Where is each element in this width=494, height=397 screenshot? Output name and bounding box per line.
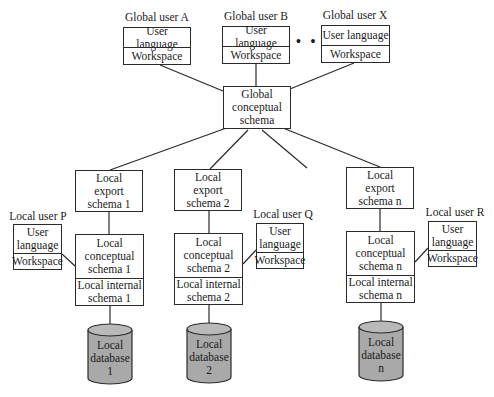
user-language-cell: User language [223, 27, 289, 46]
export-line: schema 2 [175, 197, 241, 210]
internal-line: Local internal [76, 279, 143, 292]
local-export-schema-1-box: Local export schema 1 [75, 170, 143, 212]
user-language-cell: User language [429, 222, 476, 251]
global-user-a-box: User language Workspace [123, 27, 191, 65]
local-user-r-label: Local user R [425, 206, 485, 219]
db-line: Local [88, 339, 132, 352]
internal-line: Local internal [347, 276, 414, 289]
db-line: 2 [187, 364, 231, 377]
local-internal-schema-n: Local internal schema n [347, 276, 414, 302]
local-user-p-box: User language Workspace [13, 224, 62, 270]
global-user-b-box: User language Workspace [222, 26, 290, 64]
user-language-cell: User language [322, 26, 389, 45]
user-language-cell: User language [124, 28, 190, 47]
global-user-x-label: Global user X [318, 9, 392, 22]
local-conceptual-internal-schema-1-box: Local conceptual schema 1 Local internal… [75, 234, 144, 306]
export-line: Local [76, 172, 142, 185]
global-user-b-label: Global user B [219, 10, 293, 23]
workspace-cell: Workspace [14, 254, 61, 269]
conceptual-line: schema n [347, 260, 414, 273]
export-line: export [76, 185, 142, 198]
internal-line: schema 1 [76, 292, 143, 305]
workspace-cell: Workspace [223, 46, 289, 63]
internal-line: schema 2 [175, 291, 242, 304]
local-user-p-label: Local user P [8, 210, 68, 223]
local-conceptual-schema-n: Local conceptual schema n [347, 232, 414, 276]
db-line: Local [187, 338, 231, 351]
local-conceptual-schema-2: Local conceptual schema 2 [175, 234, 242, 278]
user-language-line: language [14, 239, 61, 252]
database-cylinders [88, 321, 403, 384]
local-conceptual-schema-1: Local conceptual schema 1 [76, 235, 143, 279]
internal-line: Local internal [175, 278, 242, 291]
global-schema-line: conceptual [224, 101, 290, 114]
workspace-cell: Workspace [429, 251, 476, 266]
export-line: export [175, 184, 241, 197]
local-database-n: Local database n [359, 336, 403, 375]
local-user-q-box: User language Workspace [256, 223, 304, 269]
local-export-schema-n-box: Local export schema n [346, 167, 414, 209]
global-user-a-label: Global user A [120, 11, 194, 24]
local-conceptual-internal-schema-2-box: Local conceptual schema 2 Local internal… [174, 233, 243, 305]
export-line: Local [347, 169, 413, 182]
local-internal-schema-2: Local internal schema 2 [175, 278, 242, 304]
local-user-r-box: User language Workspace [428, 221, 477, 267]
conceptual-line: Local [347, 234, 414, 247]
global-schema-line: Global [224, 88, 290, 101]
export-line: export [347, 182, 413, 195]
local-internal-schema-1: Local internal schema 1 [76, 279, 143, 305]
workspace-cell: Workspace [124, 47, 190, 64]
global-user-x-box: User language Workspace [321, 25, 390, 63]
global-conceptual-schema-box: Global conceptual schema [223, 86, 291, 129]
conceptual-line: schema 1 [76, 263, 143, 276]
conceptual-line: conceptual [76, 250, 143, 263]
conceptual-line: Local [76, 237, 143, 250]
user-language-line: language [429, 236, 476, 249]
global-schema-line: schema [224, 114, 290, 127]
user-language-cell: User language [14, 225, 61, 254]
user-language-line: language [257, 238, 303, 251]
user-language-line: User [257, 225, 303, 238]
conceptual-line: Local [175, 236, 242, 249]
workspace-cell: Workspace [322, 45, 389, 62]
user-language-cell: User language [257, 224, 303, 253]
conceptual-line: conceptual [175, 249, 242, 262]
db-line: database [187, 351, 231, 364]
export-line: schema n [347, 195, 413, 208]
conceptual-line: schema 2 [175, 262, 242, 275]
db-line: n [359, 362, 403, 375]
local-database-2: Local database 2 [187, 338, 231, 377]
local-database-1: Local database 1 [88, 339, 132, 378]
db-line: 1 [88, 365, 132, 378]
db-line: database [359, 349, 403, 362]
conceptual-line: conceptual [347, 247, 414, 260]
local-conceptual-internal-schema-n-box: Local conceptual schema n Local internal… [346, 231, 415, 303]
workspace-cell: Workspace [257, 253, 303, 268]
local-user-q-label: Local user Q [253, 208, 313, 221]
user-language-line: User [429, 223, 476, 236]
internal-line: schema n [347, 289, 414, 302]
export-line: Local [175, 171, 241, 184]
db-line: database [88, 352, 132, 365]
user-language-line: User [14, 226, 61, 239]
db-line: Local [359, 336, 403, 349]
local-export-schema-2-box: Local export schema 2 [174, 169, 242, 211]
export-line: schema 1 [76, 198, 142, 211]
